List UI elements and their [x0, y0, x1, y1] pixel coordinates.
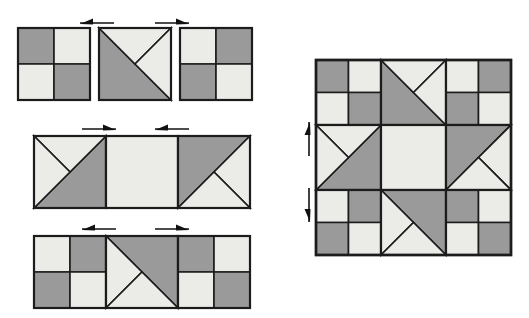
arrow-row2-right-head — [155, 125, 168, 131]
corner-bottom-left-quad-br — [349, 223, 382, 256]
corner-bottom-right-quad-tl — [446, 190, 479, 223]
middle-center-square — [381, 125, 446, 190]
arrow-block-up-head — [305, 122, 311, 135]
unit-middle-right — [446, 125, 511, 190]
unit-flying-geese-b — [34, 136, 106, 208]
corner-top-left-quad-bl — [316, 93, 349, 126]
quilt-assembly-diagram — [0, 0, 529, 318]
arrow-row3-right — [155, 225, 189, 231]
unit-flying-geese-d — [106, 236, 178, 308]
unit-middle-left — [316, 125, 381, 190]
four-patch-d-quad-br — [214, 272, 250, 308]
four-patch-b-quad-br — [216, 64, 252, 100]
corner-bottom-left-quad-bl — [316, 223, 349, 256]
corner-top-left-quad-tr — [349, 60, 382, 93]
corner-top-right-quad-br — [479, 93, 512, 126]
four-patch-c-quad-tl — [34, 236, 70, 272]
corner-top-left-quad-tl — [316, 60, 349, 93]
arrow-row3-right-head — [176, 225, 189, 231]
row-row-2 — [34, 125, 250, 209]
unit-corner-bottom-right — [446, 190, 511, 255]
unit-middle-center — [381, 125, 446, 190]
four-patch-c-quad-tr — [70, 236, 106, 272]
arrow-row2-left-head — [103, 125, 116, 131]
plain-square-center-square — [106, 136, 178, 208]
unit-flying-geese-a — [99, 28, 171, 100]
four-patch-c-quad-bl — [34, 272, 70, 308]
four-patch-d-quad-tl — [178, 236, 214, 272]
unit-top-center — [381, 60, 446, 125]
four-patch-b-quad-tl — [180, 28, 216, 64]
four-patch-b-quad-tr — [216, 28, 252, 64]
four-patch-c-quad-br — [70, 272, 106, 308]
arrow-row1-right — [155, 19, 189, 25]
unit-four-patch-c — [34, 236, 106, 308]
four-patch-d-quad-bl — [178, 272, 214, 308]
arrow-row2-left — [82, 125, 116, 131]
unit-four-patch-a — [18, 28, 90, 100]
corner-top-left-quad-br — [349, 93, 382, 126]
arrow-block-down — [305, 188, 311, 222]
row-row-3 — [34, 225, 250, 309]
arrow-row1-right-head — [176, 19, 189, 25]
arrow-row1-left — [80, 19, 114, 25]
corner-top-right-quad-tr — [479, 60, 512, 93]
arrow-row2-right — [155, 125, 189, 131]
corner-bottom-right-quad-bl — [446, 223, 479, 256]
corner-top-right-quad-bl — [446, 93, 479, 126]
four-patch-a-quad-tl — [18, 28, 54, 64]
corner-bottom-left-quad-tr — [349, 190, 382, 223]
arrow-block-down-head — [305, 209, 311, 222]
diagram-canvas — [0, 0, 529, 318]
assembled-block — [316, 60, 511, 255]
unit-corner-top-left — [316, 60, 381, 125]
unit-four-patch-b — [180, 28, 252, 100]
four-patch-b-quad-bl — [180, 64, 216, 100]
arrow-block-up — [305, 122, 311, 156]
unit-bottom-center — [381, 190, 446, 255]
four-patch-a-quad-bl — [18, 64, 54, 100]
arrow-row1-left-head — [80, 19, 93, 25]
corner-bottom-left-quad-tl — [316, 190, 349, 223]
unit-flying-geese-c — [178, 136, 250, 208]
four-patch-a-quad-br — [54, 64, 90, 100]
unit-corner-bottom-left — [316, 190, 381, 255]
corner-bottom-right-quad-br — [479, 223, 512, 256]
row-row-1 — [18, 19, 252, 101]
corner-top-right-quad-tl — [446, 60, 479, 93]
arrow-row3-left — [82, 225, 116, 231]
unit-corner-top-right — [446, 60, 511, 125]
corner-bottom-right-quad-tr — [479, 190, 512, 223]
unit-four-patch-d — [178, 236, 250, 308]
unit-plain-square-center — [106, 136, 178, 208]
arrow-row3-left-head — [82, 225, 95, 231]
four-patch-d-quad-tr — [214, 236, 250, 272]
four-patch-a-quad-tr — [54, 28, 90, 64]
